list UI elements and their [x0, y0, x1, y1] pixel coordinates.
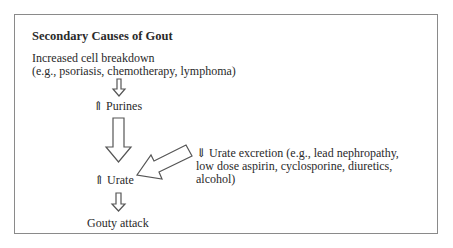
flow-arrows	[0, 0, 453, 248]
arrow-down-large-icon	[106, 118, 131, 162]
arrow-diagonal-icon	[137, 145, 192, 179]
arrow-down-icon	[113, 79, 125, 96]
arrow-down-icon	[112, 193, 125, 211]
